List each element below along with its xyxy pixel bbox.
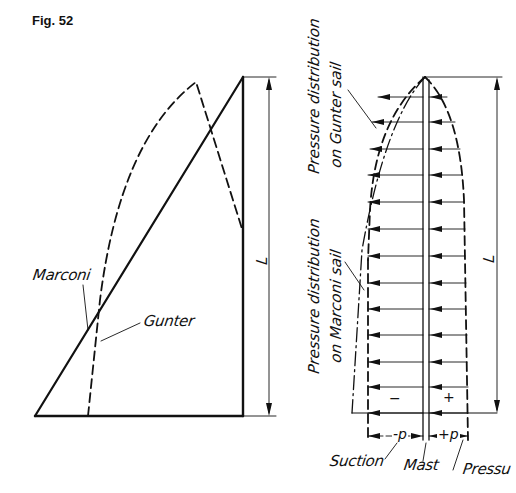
minus-sign: − [389, 390, 401, 406]
suction-label: Suction [329, 452, 385, 470]
marconi-pressure-label-line1: Pressure distribution [303, 217, 325, 375]
gunter-pressure-label-line1: Pressure distribution [303, 17, 325, 175]
neg-p-arrow-left-icon [368, 433, 380, 439]
pos-p-label: +p [437, 426, 460, 442]
pressure-label: Pressu [462, 460, 512, 478]
pressure-envelope [425, 77, 468, 440]
marconi-label: Marconi [32, 266, 92, 284]
dimension-arrow-up-icon [266, 77, 272, 90]
suction-arrowheads-icon [368, 94, 390, 416]
neg-p-arrow-right-icon [411, 433, 423, 439]
gunter-label: Gunter [143, 312, 196, 330]
marconi-pressure-label-line2: on Marconi sail [325, 248, 347, 364]
marconi-leader [83, 285, 88, 330]
gunter-leader [101, 323, 140, 341]
neg-p-label: -p [392, 426, 408, 442]
gunter-pressure-label-line2: on Gunter sail [325, 61, 347, 170]
gunter-suction-envelope [368, 77, 425, 260]
dimension-arrow-up-icon [494, 77, 500, 90]
plus-sign: + [443, 389, 455, 405]
gunter-outline [88, 82, 243, 416]
sail-pressure-diagram [0, 0, 516, 493]
marconi-leech-line [35, 77, 243, 416]
dimension-arrow-down-icon [494, 400, 500, 413]
pressure-leader [453, 440, 463, 470]
dimension-arrow-down-icon [266, 403, 272, 416]
pressure-arrowheads-icon [430, 94, 442, 416]
mast-label: Mast [403, 456, 440, 474]
suction-leader [385, 443, 397, 459]
left-sail-comparison [35, 77, 276, 416]
right-pressure-diagram [345, 77, 502, 470]
